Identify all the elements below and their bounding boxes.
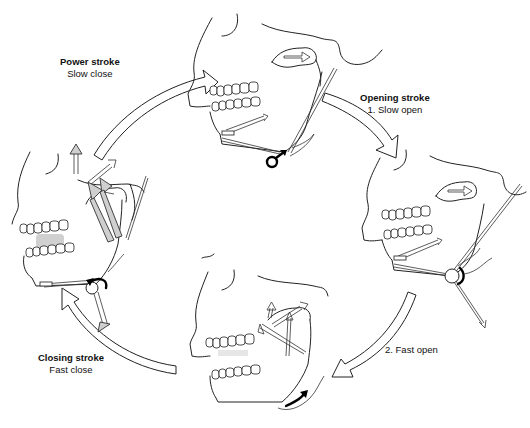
cycle-arrow-fast-open bbox=[332, 292, 416, 377]
stage-subtitle: Fast close bbox=[38, 364, 104, 376]
stage-title: Closing stroke bbox=[38, 352, 104, 364]
stage-subtitle: 2. Fast open bbox=[385, 344, 438, 356]
stage-label-closing: Closing stroke Fast close bbox=[38, 352, 104, 376]
stage-title: Opening stroke bbox=[360, 92, 430, 104]
stage-subtitle: 1. Slow open bbox=[360, 104, 430, 116]
stage-subtitle: Slow close bbox=[60, 68, 120, 80]
skull-figure-left bbox=[12, 144, 148, 332]
skull-figure-top bbox=[188, 14, 382, 167]
skull-figure-bottom bbox=[190, 254, 328, 410]
stage-label-fast-open: 2. Fast open bbox=[385, 344, 438, 356]
stage-label-power: Power stroke Slow close bbox=[60, 56, 120, 80]
cycle-arrow-power bbox=[94, 70, 218, 160]
stage-label-opening: Opening stroke 1. Slow open bbox=[360, 92, 430, 116]
skull-figure-right bbox=[362, 150, 526, 328]
stage-title: Power stroke bbox=[60, 56, 120, 68]
